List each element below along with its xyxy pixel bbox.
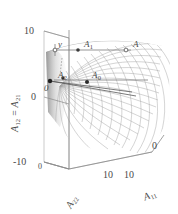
marker-a1 xyxy=(76,48,80,52)
tick-horizontal-0: 0 xyxy=(152,141,157,151)
marker-a0 xyxy=(85,80,89,84)
axis-title-vertical: A12 = A21 xyxy=(10,95,22,132)
marker-y xyxy=(53,48,57,52)
point-label-a1-sub: 1 xyxy=(90,43,94,50)
tick-horizontal-10: 10 xyxy=(124,170,134,180)
point-label-a2: A2 xyxy=(58,71,67,82)
point-label-a1-a: A xyxy=(84,39,90,49)
point-label-a0: A0 xyxy=(92,71,101,82)
axis-title-vertical-sub1: 12 xyxy=(14,119,21,126)
point-label-a2-a: A xyxy=(58,70,64,80)
point-label-a: A xyxy=(133,40,139,49)
point-label-origin: 0 xyxy=(44,84,49,93)
tick-depth-0: 0 xyxy=(38,163,42,171)
axis-title-vertical-a: A xyxy=(9,126,20,132)
surface-mesh xyxy=(45,41,178,155)
axis-title-vertical-eq: = xyxy=(9,108,20,120)
axis-title-vertical-sub2: 21 xyxy=(14,95,21,102)
tick-vertical-10: 10 xyxy=(24,26,34,36)
point-label-a2-sub: 2 xyxy=(64,74,68,81)
marker-a xyxy=(124,48,128,52)
axis-title-vertical-a2: A xyxy=(9,101,20,107)
tick-depth-10: 10 xyxy=(103,170,113,180)
point-label-y: y xyxy=(58,40,62,49)
tick-vertical-0: 0 xyxy=(31,92,36,102)
point-label-a1: A1 xyxy=(84,40,93,51)
tick-vertical-neg10: -10 xyxy=(13,157,26,167)
point-label-a0-sub: 0 xyxy=(98,74,102,81)
depth-axis-line xyxy=(44,162,69,169)
point-label-a0-a: A xyxy=(92,70,98,80)
